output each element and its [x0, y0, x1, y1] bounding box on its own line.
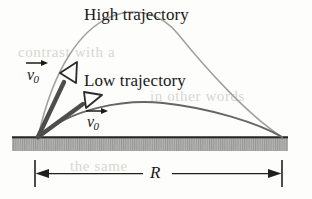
high-trajectory-label: High trajectory	[84, 6, 189, 23]
range-label: R	[150, 164, 160, 181]
v0-high-label: v0	[27, 67, 39, 85]
low-trajectory-label: Low trajectory	[84, 72, 186, 89]
v0-high-subscript: 0	[34, 73, 40, 85]
projectile-trajectory-figure: contrast with a in other words the same	[0, 0, 312, 199]
velocity-vector-high	[38, 62, 77, 137]
ground-bar	[12, 137, 288, 151]
v0-low-subscript: 0	[94, 120, 100, 132]
v0-low-label: v0	[87, 114, 99, 132]
